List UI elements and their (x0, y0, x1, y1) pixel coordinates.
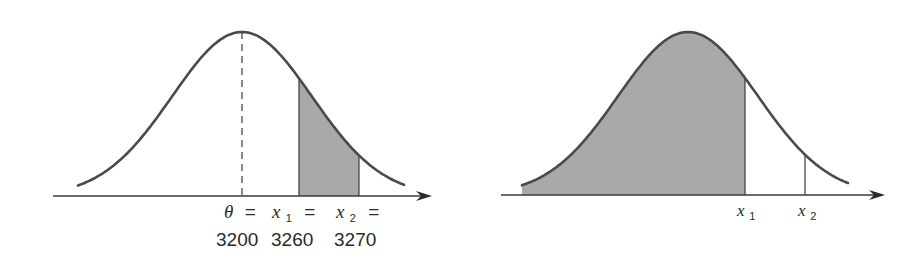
x1-value: 3260 (271, 229, 313, 250)
right-plot: x 1 x 2 (501, 32, 885, 222)
x2-label: x (797, 201, 806, 220)
x1-label: x (271, 201, 281, 222)
svg-text:θ =: θ = (224, 201, 256, 222)
left-plot: θ = x 1 = x 2 = 3200 3260 3270 (53, 32, 432, 250)
theta-label: θ (224, 201, 233, 222)
svg-text:x 2: x 2 (797, 201, 816, 222)
svg-text:x 1 =: x 1 = (271, 201, 315, 226)
x1-label: x (736, 201, 745, 220)
theta-value: 3200 (216, 229, 258, 250)
svg-text:x 1: x 1 (736, 201, 755, 222)
x1-subscript: 1 (749, 210, 755, 222)
shaded-area-x1-to-x2 (299, 78, 359, 196)
normal-distribution-diagram: θ = x 1 = x 2 = 3200 3260 3270 x 1 x 2 (0, 0, 924, 262)
x2-value: 3270 (334, 229, 376, 250)
x2-subscript: 2 (350, 212, 356, 224)
x2-label: x (335, 201, 345, 222)
x2-subscript: 2 (810, 210, 816, 222)
equals-sign: = (245, 201, 256, 222)
equals-sign: = (368, 201, 379, 222)
svg-text:x 2 =: x 2 = (335, 201, 379, 226)
equals-sign: = (304, 201, 315, 222)
shaded-area-left-of-x1 (522, 32, 745, 195)
x1-subscript: 1 (286, 212, 292, 224)
